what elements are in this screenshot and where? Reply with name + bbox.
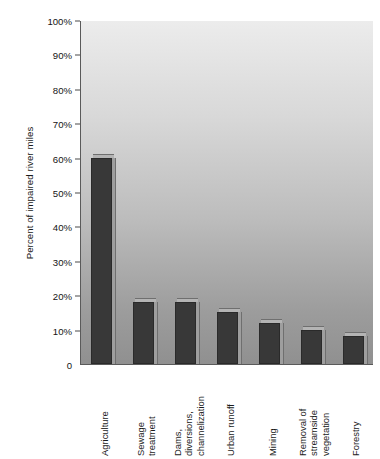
- bar: [91, 154, 116, 364]
- y-tick-label: 20%: [53, 291, 72, 302]
- bar: [133, 298, 158, 364]
- bar-front-face: [217, 312, 238, 364]
- x-tick-label-line: Mining: [267, 428, 278, 456]
- y-tick-label: 70%: [53, 119, 72, 130]
- bar-side-face: [238, 312, 242, 364]
- y-tick-label: 10%: [53, 325, 72, 336]
- x-axis-tick-labels: AgricultureSewagetreatmentDams,diversion…: [80, 368, 373, 459]
- y-axis-tick-labels: 010%20%30%40%50%60%70%80%90%100%: [36, 21, 80, 365]
- plot-area: [80, 21, 373, 365]
- x-tick-label-line: channelization: [194, 396, 205, 456]
- bar: [175, 298, 200, 364]
- x-tick-label-line: diversions,: [183, 396, 194, 456]
- bar-front-face: [301, 330, 322, 364]
- bar-side-face: [112, 158, 116, 364]
- bar-front-face: [175, 302, 196, 364]
- x-tick-label-line: Dams,: [172, 396, 183, 456]
- y-tick-label: 60%: [53, 153, 72, 164]
- x-tick-label-line: Sewage: [135, 416, 146, 456]
- bar: [259, 319, 284, 364]
- x-tick-label-line: vegetation: [320, 409, 331, 456]
- y-tick-label: 80%: [53, 84, 72, 95]
- bar-side-face: [196, 302, 200, 364]
- bar-side-face: [280, 323, 284, 364]
- bar-front-face: [343, 336, 364, 364]
- bar-chart-figure: Percent of impaired river miles 010%20%3…: [0, 0, 380, 459]
- x-tick-label-line: Urban runoff: [225, 404, 236, 456]
- x-tick-label-line: Removal of: [297, 409, 308, 456]
- y-tick-label: 0: [67, 360, 72, 371]
- x-tick-label-line: treatment: [147, 416, 158, 456]
- y-tick-label: 90%: [53, 50, 72, 61]
- bar: [343, 332, 368, 364]
- bars-layer: [81, 21, 373, 364]
- x-tick-label-line: Agriculture: [99, 411, 110, 456]
- bar-front-face: [91, 158, 112, 364]
- y-tick-label: 100%: [47, 16, 72, 27]
- bar: [301, 326, 326, 364]
- y-tick-label: 40%: [53, 222, 72, 233]
- bar-side-face: [364, 336, 368, 364]
- bar-side-face: [154, 302, 158, 364]
- bar-side-face: [322, 330, 326, 364]
- bar-front-face: [259, 323, 280, 364]
- bar: [217, 308, 242, 364]
- x-tick-label-line: streamside: [309, 409, 320, 456]
- y-tick-label: 30%: [53, 256, 72, 267]
- bar-front-face: [133, 302, 154, 364]
- x-tick-label-line: Forestry: [350, 422, 361, 456]
- y-tick-label: 50%: [53, 188, 72, 199]
